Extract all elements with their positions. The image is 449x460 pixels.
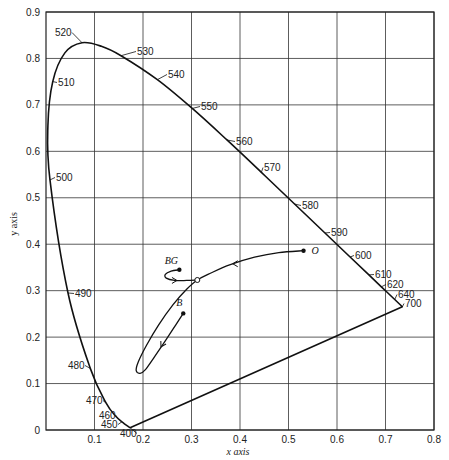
wavelength-label: 490 [75, 288, 92, 299]
y-tick-label: 0.9 [26, 7, 40, 18]
wavelength-label: 520 [55, 27, 72, 38]
point-label: B [176, 297, 182, 308]
wavelength-label: 560 [236, 136, 253, 147]
point-label: O [312, 245, 319, 256]
wavelength-tick [261, 168, 263, 173]
x-tick-label: 0.3 [185, 434, 199, 445]
x-tick-label: 0.4 [233, 434, 247, 445]
spectral-locus: 4004504604704804905005105205305405505605… [47, 27, 422, 439]
wavelength-label: 570 [264, 162, 281, 173]
y-tick-label: 0.7 [26, 99, 40, 110]
y-tick-label: 0.8 [26, 53, 40, 64]
wavelength-label: 470 [86, 395, 103, 406]
point-marker [177, 268, 181, 272]
x-tick-label: 0.7 [379, 434, 393, 445]
direction-arrow-icon [233, 261, 238, 267]
wavelength-tick [50, 178, 55, 180]
wavelength-label: 460 [99, 410, 116, 421]
wavelength-tick [121, 52, 136, 56]
wavelength-tick [157, 75, 167, 80]
y-tick-label: 0.1 [26, 378, 40, 389]
y-tick-label: 0 [34, 425, 40, 436]
y-tick-label: 0.2 [26, 332, 40, 343]
wavelength-label: 540 [168, 69, 185, 80]
wavelength-label: 530 [137, 46, 154, 57]
point-marker [301, 249, 305, 253]
chromaticity-chart: 0.10.20.30.40.50.60.70.800.10.20.30.40.5… [0, 0, 449, 460]
y-axis-title: y axis [8, 212, 19, 236]
x-tick-label: 0.6 [330, 434, 344, 445]
y-tick-label: 0.6 [26, 146, 40, 157]
wavelength-tick [72, 33, 82, 43]
wavelength-label: 400 [120, 428, 137, 439]
x-tick-label: 0.1 [88, 434, 102, 445]
x-tick-label: 0.8 [427, 434, 441, 445]
wavelength-label: 550 [201, 101, 218, 112]
open-point-marker [195, 277, 200, 282]
grid-lines [46, 12, 434, 430]
axes: 0.10.20.30.40.50.60.70.800.10.20.30.40.5… [26, 7, 441, 446]
x-tick-label: 0.5 [282, 434, 296, 445]
wavelength-label: 580 [302, 200, 319, 211]
y-tick-label: 0.3 [26, 285, 40, 296]
wavelength-label: 480 [68, 360, 85, 371]
wavelength-tick [68, 293, 74, 294]
wavelength-tick [402, 304, 404, 307]
wavelength-label: 590 [331, 227, 348, 238]
spectral-locus-curve [47, 42, 402, 427]
x-tick-label: 0.2 [136, 434, 150, 445]
trajectories [136, 251, 303, 374]
wavelength-tick [118, 422, 122, 425]
wavelength-label: 600 [355, 250, 372, 261]
y-tick-label: 0.4 [26, 239, 40, 250]
wavelength-label: 700 [405, 298, 422, 309]
wavelength-label: 500 [56, 172, 73, 183]
trajectory-curve [136, 251, 303, 374]
point-label: BG [165, 255, 178, 266]
wavelength-tick [192, 107, 200, 109]
wavelength-tick [350, 256, 354, 257]
point-marker [181, 311, 185, 315]
wavelength-tick [395, 295, 397, 300]
y-tick-label: 0.5 [26, 192, 40, 203]
trajectory-curve [165, 270, 197, 281]
wavelength-label: 510 [58, 77, 75, 88]
x-axis-title: x axis [225, 446, 249, 457]
